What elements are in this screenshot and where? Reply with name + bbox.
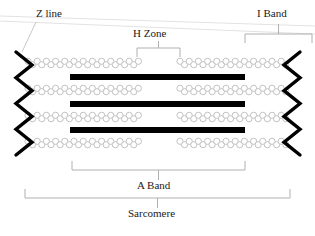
sarcomere-diagram: Z line H Zone I Band A Band Sarcomere bbox=[0, 0, 315, 236]
thin-filament-row-1-left bbox=[25, 85, 142, 95]
bracket-i-band bbox=[245, 24, 312, 43]
thick-filament-group bbox=[70, 74, 245, 133]
z-line-leader-line bbox=[22, 22, 36, 52]
label-z-line: Z line bbox=[36, 8, 62, 19]
thick-filament-row-1 bbox=[70, 101, 245, 107]
thick-filament-row-2 bbox=[70, 127, 245, 133]
thin-filament-row-2-right bbox=[177, 112, 289, 122]
thin-filament-row-3-right bbox=[177, 138, 289, 148]
actin-monomer bbox=[135, 138, 141, 144]
thin-filament-row-0-left bbox=[25, 58, 142, 68]
thin-filament-row-0-right bbox=[177, 58, 289, 68]
bracket-a-band bbox=[72, 161, 245, 180]
label-sarcomere: Sarcomere bbox=[128, 208, 175, 219]
thin-filament-row-2-left bbox=[25, 112, 142, 122]
label-h-zone: H Zone bbox=[133, 28, 166, 39]
actin-monomer bbox=[135, 112, 141, 118]
label-i-band: I Band bbox=[257, 8, 287, 19]
actin-monomer bbox=[135, 58, 141, 64]
thin-filament-row-3-left bbox=[25, 138, 142, 148]
bracket-h-zone bbox=[137, 41, 180, 57]
z-line-leader bbox=[22, 22, 36, 52]
thin-filament-row-1-right bbox=[177, 85, 289, 95]
z-line-right bbox=[284, 52, 300, 155]
bracket-sarcomere bbox=[25, 189, 290, 208]
z-line-left bbox=[16, 52, 32, 155]
label-a-band: A Band bbox=[137, 180, 170, 191]
thick-filament-row-0 bbox=[70, 74, 245, 80]
actin-monomer bbox=[135, 85, 141, 91]
